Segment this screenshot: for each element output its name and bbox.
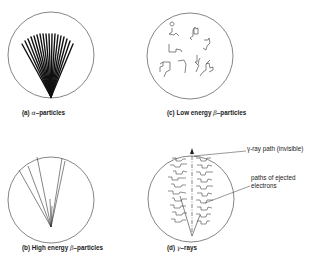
annotation-gamma-path: γ-ray path (invisible)	[247, 145, 303, 153]
gamma-path-leader	[194, 151, 246, 156]
cloud-chamber-diagram	[0, 0, 323, 257]
panel-b-high-beta	[8, 157, 94, 243]
annotation-ejected-electrons: paths of ejected electrons	[251, 174, 295, 190]
panel-a-alpha	[8, 12, 94, 98]
caption-c: (c) Low energy β–particles	[167, 109, 246, 116]
panel-c-low-beta	[147, 13, 233, 99]
caption-d: (d) γ–rays	[167, 244, 197, 251]
caption-a: (a) α–particles	[22, 109, 65, 116]
electrons-leader	[205, 186, 250, 203]
panel-d-gamma	[148, 148, 250, 242]
caption-b: (b) High energy β–particles	[22, 244, 103, 251]
